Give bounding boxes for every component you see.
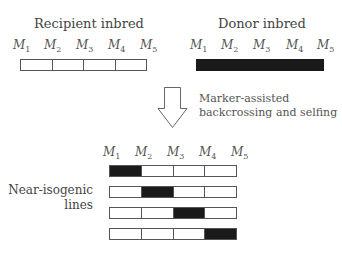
recipient-segment	[142, 229, 174, 239]
donor-marker-1: M1	[190, 38, 207, 54]
nil-label-line-1: Near-isogenic	[8, 183, 93, 198]
nil-label: Near-isogenic lines	[8, 183, 93, 213]
recipient-marker-3: M3	[76, 38, 93, 54]
donor-marker-3: M3	[253, 38, 270, 54]
donor-chromosome-bar	[196, 59, 324, 71]
donor-segment	[174, 208, 206, 218]
recipient-segment	[205, 166, 236, 176]
nil-row-2	[109, 186, 237, 198]
donor-segment	[205, 229, 236, 239]
recipient-marker-1: M1	[13, 38, 30, 54]
nil-marker-4: M4	[199, 145, 216, 161]
recipient-segment	[110, 229, 142, 239]
nil-row-4	[109, 228, 237, 240]
recipient-segment	[142, 208, 174, 218]
donor-segment	[142, 187, 174, 197]
recipient-marker-4: M4	[108, 38, 125, 54]
recipient-chromosome-bar	[20, 59, 147, 71]
donor-marker-5: M5	[317, 38, 334, 54]
recipient-segment	[174, 187, 206, 197]
nil-marker-5: M5	[231, 145, 248, 161]
recipient-segment	[142, 166, 174, 176]
donor-title: Donor inbred	[218, 16, 306, 31]
recipient-segment	[116, 60, 147, 70]
recipient-segment	[21, 60, 53, 70]
process-caption-line-2: backcrossing and selfing	[199, 106, 337, 120]
recipient-marker-5: M5	[140, 38, 157, 54]
recipient-segment	[174, 166, 206, 176]
recipient-marker-2: M2	[44, 38, 61, 54]
nil-marker-1: M1	[103, 145, 120, 161]
nil-marker-3: M3	[167, 145, 184, 161]
donor-marker-4: M4	[286, 38, 303, 54]
nil-label-line-2: lines	[8, 198, 93, 213]
process-caption: Marker-assisted backcrossing and selfing	[199, 92, 337, 120]
down-arrow-icon	[155, 86, 189, 130]
nil-row-1	[109, 165, 237, 177]
recipient-segment	[84, 60, 116, 70]
nil-row-3	[109, 207, 237, 219]
recipient-segment	[174, 229, 206, 239]
recipient-segment	[205, 208, 236, 218]
recipient-segment	[110, 187, 142, 197]
nil-marker-2: M2	[135, 145, 152, 161]
donor-marker-2: M2	[221, 38, 238, 54]
recipient-segment	[53, 60, 85, 70]
recipient-title: Recipient inbred	[34, 16, 144, 31]
recipient-segment	[110, 208, 142, 218]
recipient-segment	[205, 187, 236, 197]
donor-segment	[110, 166, 142, 176]
process-caption-line-1: Marker-assisted	[199, 92, 337, 106]
